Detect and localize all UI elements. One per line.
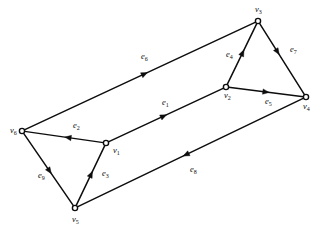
arrowhead-e8 bbox=[183, 151, 190, 156]
edge-e6 bbox=[24, 22, 255, 130]
arrowhead-e7 bbox=[273, 48, 279, 55]
edge-label-e2: e2 bbox=[73, 120, 80, 131]
arrowhead-e6 bbox=[141, 72, 148, 77]
arrowhead-e2 bbox=[65, 135, 72, 140]
edge-e2 bbox=[25, 131, 104, 142]
vertex-v6 bbox=[19, 128, 24, 133]
vertices-layer bbox=[19, 18, 308, 210]
arrowheads-layer bbox=[45, 48, 279, 179]
vertex-v3 bbox=[255, 18, 260, 23]
vertex-v2 bbox=[223, 84, 228, 89]
edge-label-e8: e8 bbox=[190, 164, 197, 175]
vertex-label-v1: v1 bbox=[113, 145, 120, 156]
edge-e7 bbox=[259, 23, 304, 95]
edge-label-e7: e7 bbox=[290, 44, 297, 55]
vertex-label-v3: v3 bbox=[255, 4, 262, 15]
arrowhead-e5 bbox=[262, 89, 269, 94]
vertex-label-v2: v2 bbox=[224, 90, 231, 101]
arrowhead-e3 bbox=[87, 171, 92, 178]
edge-label-e6: e6 bbox=[141, 51, 148, 62]
edge-label-e9: e9 bbox=[38, 170, 45, 181]
edge-label-e5: e5 bbox=[265, 96, 272, 107]
directed-graph-canvas: e1e2e3e4e5e6e7e8e9v1v2v3v4v5v6 bbox=[0, 0, 320, 231]
vertex-v5 bbox=[72, 205, 77, 210]
edge-label-e1: e1 bbox=[162, 97, 169, 108]
edge-label-e4: e4 bbox=[226, 49, 233, 60]
labels-layer: e1e2e3e4e5e6e7e8e9v1v2v3v4v5v6 bbox=[10, 4, 310, 225]
edge-label-e3: e3 bbox=[102, 168, 109, 179]
arrowhead-e1 bbox=[160, 115, 167, 120]
edges-layer bbox=[23, 22, 304, 207]
arrowhead-e9 bbox=[45, 167, 51, 174]
vertex-label-v4: v4 bbox=[303, 101, 310, 112]
vertex-label-v6: v6 bbox=[10, 125, 17, 136]
edge-e8 bbox=[77, 98, 303, 207]
vertex-v1 bbox=[103, 140, 108, 145]
diagram-page: e1e2e3e4e5e6e7e8e9v1v2v3v4v5v6 bbox=[0, 0, 320, 231]
arrowhead-e4 bbox=[239, 50, 244, 57]
vertex-label-v5: v5 bbox=[72, 214, 79, 225]
vertex-v4 bbox=[303, 94, 308, 99]
